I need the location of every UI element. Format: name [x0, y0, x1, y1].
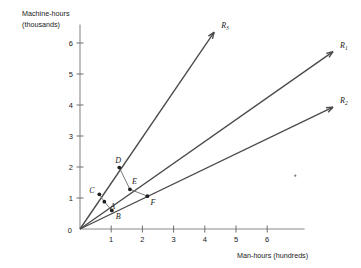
y-axis-title-line1: Machine-hours — [22, 9, 70, 18]
x-axis-title: Man-hours (hundreds) — [237, 251, 308, 260]
point-label-C: C — [89, 186, 95, 195]
rays-group — [80, 32, 333, 229]
point-label-B: B — [116, 212, 121, 221]
graph-figure: 1234561234560Machine-hours(thousands)Man… — [0, 0, 361, 268]
stray-speck — [294, 175, 296, 177]
ray-label-R_1: R1 — [339, 41, 348, 51]
ray-arrowhead — [326, 107, 333, 108]
x-axis-tick-label: 1 — [109, 235, 113, 244]
point-label-F: F — [149, 198, 155, 207]
connector-D-E — [119, 168, 130, 190]
labels-group: R3R1R2ABCDEF — [89, 21, 348, 221]
x-axis-tick-label: 2 — [140, 235, 144, 244]
ray-label-R_2: R2 — [339, 96, 348, 106]
data-point-C — [97, 192, 101, 196]
x-axis-tick-label: 5 — [234, 235, 238, 244]
point-label-A: A — [109, 202, 115, 211]
data-point-E — [128, 187, 132, 191]
y-axis-tick-label: 6 — [69, 39, 73, 48]
x-axis-tick-label: 4 — [203, 235, 207, 244]
data-point-F — [145, 194, 149, 198]
y-axis-tick-label: 4 — [69, 101, 73, 110]
y-axis-title-line2: (thousands) — [22, 20, 60, 29]
x-axis-tick-label: 6 — [265, 235, 269, 244]
y-axis-tick-label: 1 — [69, 194, 73, 203]
ray-R_1 — [80, 52, 333, 229]
ray-label-R_3: R3 — [220, 21, 229, 31]
y-axis-tick-label: 5 — [69, 70, 73, 79]
y-axis-tick-label: 3 — [69, 132, 73, 141]
x-axis-tick-label: 3 — [172, 235, 176, 244]
origin-label: 0 — [68, 226, 72, 235]
ray-R_3 — [80, 32, 214, 229]
point-label-D: D — [114, 156, 121, 165]
point-label-E: E — [131, 177, 137, 186]
axes-group: 1234561234560Machine-hours(thousands)Man… — [22, 9, 308, 260]
y-axis-tick-label: 2 — [69, 163, 73, 172]
data-point-D — [117, 166, 121, 170]
data-point-A — [102, 200, 106, 204]
